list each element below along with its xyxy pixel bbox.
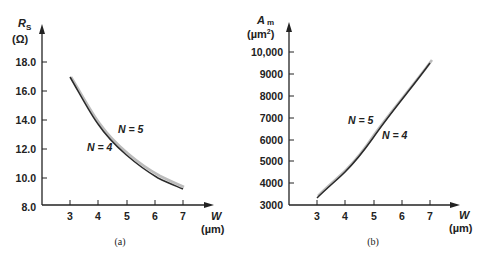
a-x-ticks	[70, 200, 183, 205]
b-xunit: (µm)	[449, 222, 473, 234]
a-caption: (a)	[114, 236, 125, 248]
b-y-axis-arrow-icon	[286, 22, 292, 32]
b-ytick-5000: 5000	[260, 155, 284, 167]
figure: 18.0 16.0 14.0 12.0 10.0 8.0 3 4 5 6 7 R…	[0, 0, 483, 259]
a-annotation-n5: N = 5	[118, 123, 144, 135]
b-xlabel: W	[459, 209, 471, 221]
a-y-axis-arrow-icon	[39, 24, 45, 34]
b-x-ticks	[317, 200, 430, 205]
b-xtick-4: 4	[342, 210, 348, 222]
b-x-axis-arrow-icon	[450, 202, 460, 208]
b-ytick-6000: 6000	[260, 134, 284, 146]
b-ytick-10000: 10,000	[251, 46, 283, 58]
chart-a: 18.0 16.0 14.0 12.0 10.0 8.0 3 4 5 6 7 R…	[12, 17, 225, 248]
b-curve-n5	[318, 60, 432, 196]
b-annotation-n5: N = 5	[348, 114, 374, 126]
a-xlabel: W	[211, 210, 223, 222]
b-caption: (b)	[367, 236, 379, 248]
b-xtick-7: 7	[427, 210, 433, 222]
b-ytick-7000: 7000	[260, 112, 284, 124]
a-ytick-18: 18.0	[16, 56, 37, 68]
a-xtick-6: 6	[152, 210, 158, 222]
a-yunit: (Ω)	[12, 33, 28, 45]
a-y-ticks	[42, 62, 47, 178]
chart-b: 10,000 9000 8000 7000 6000 5000 4000 300…	[247, 14, 473, 248]
a-ytick-14: 14.0	[16, 114, 37, 126]
a-ytick-12: 12.0	[16, 143, 37, 155]
b-xtick-5: 5	[371, 210, 377, 222]
a-xtick-3: 3	[67, 210, 73, 222]
b-y-ticks	[289, 52, 294, 183]
b-xtick-3: 3	[314, 210, 320, 222]
a-xunit: (µm)	[201, 223, 225, 235]
a-xtick-4: 4	[95, 210, 101, 222]
a-ytick-8: 8.0	[21, 201, 36, 213]
a-x-axis-arrow-icon	[204, 202, 214, 208]
b-ytick-9000: 9000	[260, 68, 284, 80]
b-xtick-6: 6	[399, 210, 405, 222]
a-ylabel: RS	[18, 17, 32, 32]
b-ylabel: Am	[256, 14, 274, 27]
b-annotation-n4: N = 4	[382, 129, 408, 141]
a-ytick-10: 10.0	[16, 172, 37, 184]
a-xtick-5: 5	[124, 210, 130, 222]
a-ytick-16: 16.0	[16, 85, 37, 97]
b-ytick-3000: 3000	[260, 199, 284, 211]
b-yunit: (µm2)	[247, 28, 275, 40]
b-ytick-8000: 8000	[260, 90, 284, 102]
a-xtick-7: 7	[180, 210, 186, 222]
a-annotation-n4: N = 4	[87, 141, 113, 153]
b-ytick-4000: 4000	[260, 177, 284, 189]
